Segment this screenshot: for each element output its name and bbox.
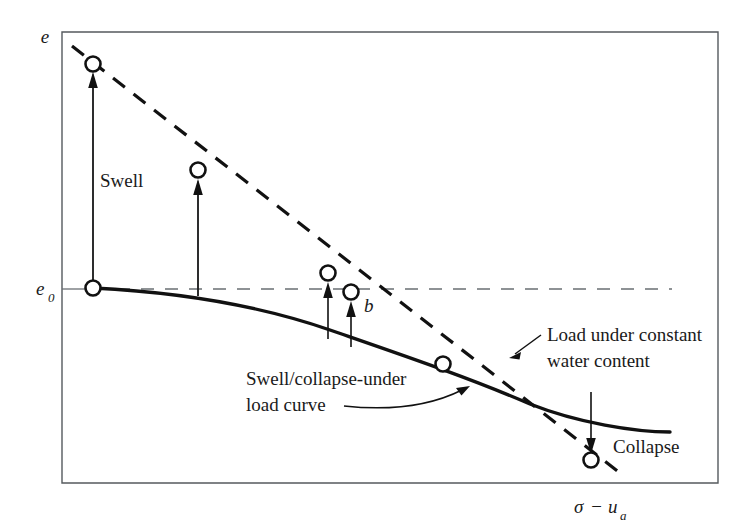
swell-label: Swell bbox=[100, 170, 143, 191]
x-axis-u: u bbox=[608, 496, 618, 517]
swell-arrow-1 bbox=[88, 72, 98, 288]
y-axis-label: e bbox=[41, 26, 49, 47]
load-label-line2: water content bbox=[547, 350, 651, 371]
swell-collapse-load-curve bbox=[72, 46, 620, 473]
load-leader-stem bbox=[515, 335, 541, 354]
x-axis-label: σ − u a bbox=[574, 496, 627, 523]
swell-collapse-leader-head bbox=[456, 386, 470, 396]
collapse-label: Collapse bbox=[613, 436, 680, 457]
swell-collapse-label-line2: load curve bbox=[246, 394, 326, 415]
swell-arrow-3-head bbox=[323, 282, 333, 298]
e0-label-subscript: 0 bbox=[48, 290, 55, 305]
figure-container: e e 0 σ − u a Swell b Collapse Load unde… bbox=[0, 0, 755, 531]
data-point-marker bbox=[191, 163, 206, 178]
swell-collapse-label-line1: Swell/collapse-under bbox=[246, 368, 407, 389]
swell-arrow-2-head bbox=[193, 179, 203, 195]
x-axis-sigma: σ bbox=[574, 496, 584, 517]
soil-void-ratio-plot: e e 0 σ − u a Swell b Collapse Load unde… bbox=[0, 0, 755, 531]
swell-collapse-leader-stem bbox=[344, 390, 462, 408]
data-point-marker bbox=[436, 357, 451, 372]
x-axis-minus: − bbox=[590, 496, 603, 517]
swell-arrow-4-head bbox=[346, 301, 356, 317]
swell-arrow-1-head bbox=[88, 72, 98, 88]
origin-point-marker bbox=[86, 281, 101, 296]
swell-arrow-2 bbox=[193, 179, 203, 296]
data-point-marker bbox=[344, 285, 359, 300]
load-constant-water-leader bbox=[509, 335, 541, 360]
data-point-marker bbox=[584, 453, 599, 468]
frame-rect bbox=[62, 32, 718, 483]
e0-label-main: e bbox=[36, 278, 44, 299]
plot-frame bbox=[62, 32, 718, 483]
load-label-line1: Load under constant bbox=[547, 324, 703, 345]
load-constant-water-label: Load under constant water content bbox=[547, 324, 703, 371]
x-axis-u-subscript: a bbox=[620, 508, 627, 523]
data-point-marker bbox=[321, 266, 336, 281]
swell-collapse-leader bbox=[344, 386, 470, 408]
point-b-label: b bbox=[364, 295, 374, 316]
data-point-marker bbox=[86, 57, 101, 72]
swell-arrows bbox=[88, 72, 356, 347]
dashed-line-series bbox=[72, 46, 620, 473]
e0-axis-label: e 0 bbox=[36, 278, 55, 305]
